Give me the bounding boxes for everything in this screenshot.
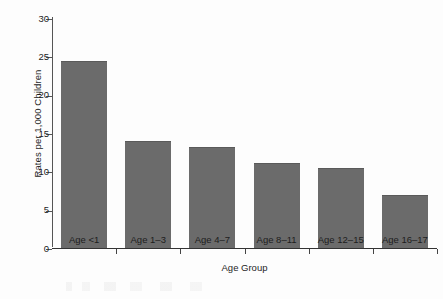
x-axis-tick-mark [116,249,117,254]
x-axis-tick-label: Age <1 [52,234,116,245]
y-axis-tick-label: 20 [38,89,49,100]
x-axis-tick-mark [373,249,374,254]
y-axis-line [52,17,53,247]
y-axis-tick-label: 15 [38,128,49,139]
bar [61,61,107,248]
bar [125,141,171,248]
bar [189,147,235,248]
y-axis-tick-label: 5 [44,204,49,215]
x-axis-tick-mark [309,249,310,254]
y-axis-tick-label: 10 [38,166,49,177]
x-axis-tick-label: Age 4–7 [180,234,244,245]
x-axis-title: Age Group [52,262,437,273]
y-axis-tick-label: 0 [44,243,49,254]
x-axis-tick-mark [437,249,438,254]
x-axis-tick-label: Age 1–3 [116,234,180,245]
y-axis-tick-label: 30 [38,13,49,24]
scan-artifact [60,282,240,291]
x-axis-tick-mark [180,249,181,254]
x-axis-tick-label: Age 16–17 [373,234,437,245]
x-axis-tick-label: Age 12–15 [309,234,373,245]
x-axis-tick-label: Age 8–11 [245,234,309,245]
bar-chart-figure: Rates per 1,000 Children 051015202530 Ag… [0,0,443,299]
plot-area: 051015202530 [52,17,437,249]
y-axis-tick-label: 25 [38,51,49,62]
x-axis-tick-mark [245,249,246,254]
